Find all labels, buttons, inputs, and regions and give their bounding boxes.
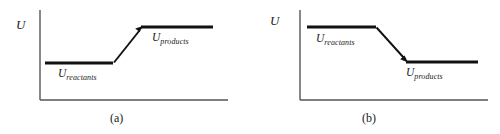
- reactants-subscript-a: reactants: [66, 73, 96, 82]
- reactants-label-b: Ureactants: [316, 33, 355, 45]
- panel-b: U Ureactants Uproducts (b): [250, 0, 500, 134]
- products-label-b: Uproducts: [406, 67, 443, 79]
- reactants-subscript-b: reactants: [324, 38, 354, 47]
- products-subscript-b: products: [414, 72, 443, 81]
- reactants-label-a: Ureactants: [58, 68, 97, 80]
- y-axis-label-b: U: [270, 14, 279, 27]
- y-axis-label-a: U: [16, 18, 25, 31]
- products-label-a: Uproducts: [152, 32, 189, 44]
- panel-a-plot: [0, 0, 250, 134]
- transition-arrow-a: [114, 31, 140, 63]
- products-subscript-a: products: [160, 37, 189, 46]
- panel-caption-a: (a): [110, 112, 123, 124]
- panel-a: U Ureactants Uproducts (a): [0, 0, 250, 134]
- panel-caption-b: (b): [362, 112, 376, 124]
- transition-arrow-b: [377, 28, 405, 59]
- energy-diagram-figure: U Ureactants Uproducts (a) U Ureactants: [0, 0, 500, 134]
